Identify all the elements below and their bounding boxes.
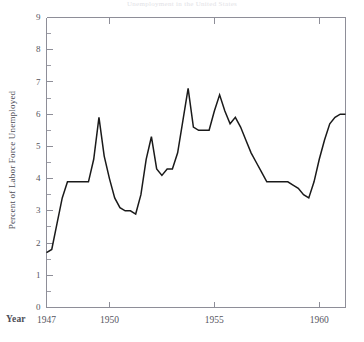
x-tick-group: 1947195019551960: [37, 18, 329, 325]
x-tick-label: 1950: [100, 315, 119, 325]
y-tick-label: 3: [36, 205, 41, 215]
x-tick-label: 1955: [205, 315, 224, 325]
x-tick-label: 1947: [37, 315, 56, 325]
y-tick-label: 7: [36, 77, 41, 87]
chart-figure: Unemployment in the United States 012345…: [0, 0, 364, 342]
y-tick-label: 9: [36, 12, 41, 22]
series-group: [47, 88, 346, 252]
x-axis-label: Year: [6, 314, 26, 324]
y-tick-label: 6: [36, 109, 41, 119]
y-tick-label: 2: [36, 238, 41, 248]
x-tick-label: 1960: [310, 315, 329, 325]
y-tick-label: 0: [36, 302, 41, 312]
y-tick-label: 8: [36, 44, 41, 54]
axes-group: [47, 18, 346, 308]
y-tick-label: 4: [36, 173, 41, 183]
line-chart-plot: 0123456789 1947195019551960: [0, 0, 364, 342]
y-tick-label: 5: [36, 141, 41, 151]
y-tick-label: 1: [36, 270, 41, 280]
series-line-unemployment: [47, 88, 346, 252]
y-tick-group: 0123456789: [36, 12, 53, 312]
y-axis-label: Percent of Labor Force Unemployed: [7, 60, 17, 260]
